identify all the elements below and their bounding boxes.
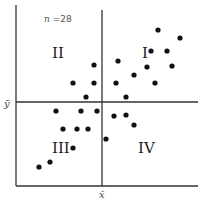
data-point [148,48,153,53]
data-point [144,64,149,69]
data-point [74,126,79,131]
data-point [155,27,160,32]
data-point [78,108,83,113]
data-point [123,94,128,99]
data-point [70,145,75,150]
sample-size-annotation: n =28 [44,14,72,24]
data-point [169,63,174,68]
data-point [70,80,75,85]
quadrant-label-ii: II [52,44,64,62]
data-point [103,136,108,141]
data-point [94,108,99,113]
data-point [36,164,41,169]
data-point [60,126,65,131]
data-point [152,80,157,85]
data-point [91,62,96,67]
data-point [131,122,136,127]
data-point [177,35,182,40]
data-point [131,72,136,77]
data-point [115,58,120,63]
scatter-chart: n =28 II I III IV ȳ x̄ [0,0,200,210]
data-point [91,80,96,85]
y-mean-label: ȳ [3,98,10,109]
data-point [47,159,52,164]
data-point [123,112,128,117]
data-point [113,80,118,85]
quadrant-label-iii: III [52,139,70,157]
quadrant-label-i: I [142,44,148,62]
quadrant-label-iv: IV [138,139,156,157]
data-point [85,126,90,131]
x-mean-label: x̄ [99,189,105,200]
data-point [53,108,58,113]
data-point [83,94,88,99]
data-point [164,48,169,53]
data-point [111,113,116,118]
